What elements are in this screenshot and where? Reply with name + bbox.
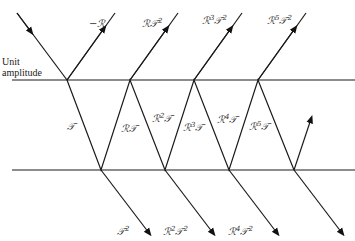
label-r4-t: ℛ4𝒯 bbox=[217, 113, 240, 125]
label-r5-t: ℛ5𝒯 bbox=[249, 120, 272, 132]
transmitted-ray-2 bbox=[165, 170, 213, 233]
unit-amplitude-label: Unit bbox=[2, 56, 20, 67]
transmitted-ray-3 bbox=[229, 170, 277, 233]
transmitted-ray-1 bbox=[101, 170, 149, 233]
label-r3-t: ℛ3𝒯 bbox=[183, 121, 206, 133]
label-r2-t2: ℛ2𝒯2 bbox=[163, 225, 188, 237]
continuing-internal-ray bbox=[294, 119, 311, 170]
unit-amplitude-label-2: amplitude bbox=[2, 67, 43, 78]
label-t: 𝒯 bbox=[67, 121, 78, 132]
label-r-t: ℛ𝒯 bbox=[121, 123, 140, 134]
label-minus-r: −ℛ bbox=[89, 18, 106, 29]
label-r-t2: ℛ𝒯2 bbox=[142, 17, 163, 29]
label-t2: 𝒯2 bbox=[117, 225, 130, 237]
label-r2-t: ℛ2𝒯 bbox=[152, 112, 175, 124]
label-r3-t2: ℛ3𝒯2 bbox=[202, 14, 227, 26]
label-r5-t2: ℛ5𝒯2 bbox=[267, 14, 292, 26]
transmitted-ray-4 bbox=[294, 170, 342, 233]
label-r4-t2: ℛ4𝒯2 bbox=[228, 225, 253, 237]
multiple-reflection-diagram: Unit amplitude −ℛ ℛ𝒯2 ℛ3𝒯2 ℛ5𝒯2 𝒯 ℛ𝒯 ℛ2𝒯… bbox=[0, 0, 355, 241]
